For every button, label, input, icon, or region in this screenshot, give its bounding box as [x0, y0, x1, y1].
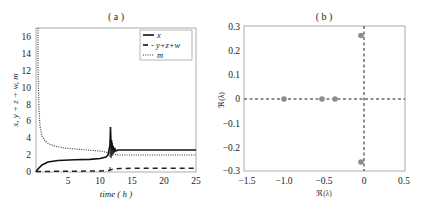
- panel-a-title: ( a ): [108, 11, 124, 23]
- xtick: 0: [362, 176, 367, 186]
- ytick: −0.1: [223, 119, 240, 129]
- panel-a-xlabel: time ( h ): [100, 189, 133, 199]
- panel-b-xlabel: ℜ(λ): [316, 189, 332, 198]
- panel-b-ylabel: ℜ(λ): [217, 92, 226, 108]
- xtick: 5: [66, 176, 71, 186]
- panel-a: ( a ) 0 2 4 6 8 10 12 14 16 5 10 15 20 2…: [10, 11, 201, 199]
- ytick: 16: [22, 32, 32, 42]
- ytick: 4: [26, 133, 31, 143]
- ytick: 0.3: [228, 22, 240, 32]
- ytick: 0: [235, 94, 240, 104]
- ytick: 0.1: [228, 70, 240, 80]
- series-x: [36, 127, 196, 172]
- xtick: −1.5: [238, 176, 255, 186]
- legend-label-yzw: - y+z+w: [151, 40, 181, 50]
- series-x-oscillation: [110, 135, 115, 158]
- eigenvalue-point: [358, 33, 364, 39]
- xtick: 20: [159, 176, 169, 186]
- legend-label-m: m: [157, 50, 163, 60]
- legend-label-x: x: [156, 30, 161, 40]
- panel-b: ( b ) 0.3 0.2 0.1 0 −0.1 −0.2 −0.3 −1.5 …: [217, 11, 410, 198]
- ytick: 8: [26, 100, 31, 110]
- eigenvalue-point: [358, 159, 364, 165]
- xtick: 25: [191, 176, 201, 186]
- ytick: −0.2: [223, 143, 240, 153]
- ytick: 0: [26, 167, 31, 177]
- ytick: 6: [26, 116, 31, 126]
- panel-b-xticks: −1.5 −1.0 −0.5 0 0.5: [238, 176, 410, 186]
- figure: ( a ) 0 2 4 6 8 10 12 14 16 5 10 15 20 2…: [0, 0, 425, 212]
- xtick: 15: [127, 176, 137, 186]
- xtick: −1.0: [275, 176, 292, 186]
- panel-a-xticks: 5 10 15 20 25: [66, 176, 201, 186]
- panel-a-legend: x - y+z+w m: [140, 30, 192, 60]
- panel-a-ylabel: x, y + z + w, m: [10, 73, 20, 128]
- xtick: 0.5: [398, 176, 410, 186]
- eigenvalue-point: [281, 96, 287, 102]
- ytick: 0.2: [228, 46, 240, 56]
- panel-a-yticks: 0 2 4 6 8 10 12 14 16: [22, 32, 32, 177]
- eigenvalue-point: [319, 96, 325, 102]
- xtick: 10: [95, 176, 105, 186]
- ytick: −0.3: [223, 166, 240, 176]
- panel-b-title: ( b ): [316, 11, 333, 23]
- xtick: −0.5: [315, 176, 332, 186]
- ytick: 10: [22, 83, 32, 93]
- eigenvalue-point: [332, 96, 338, 102]
- ytick: 2: [26, 150, 31, 160]
- series-yzw: [36, 168, 196, 171]
- ytick: 12: [22, 66, 32, 76]
- ytick: 14: [22, 49, 32, 59]
